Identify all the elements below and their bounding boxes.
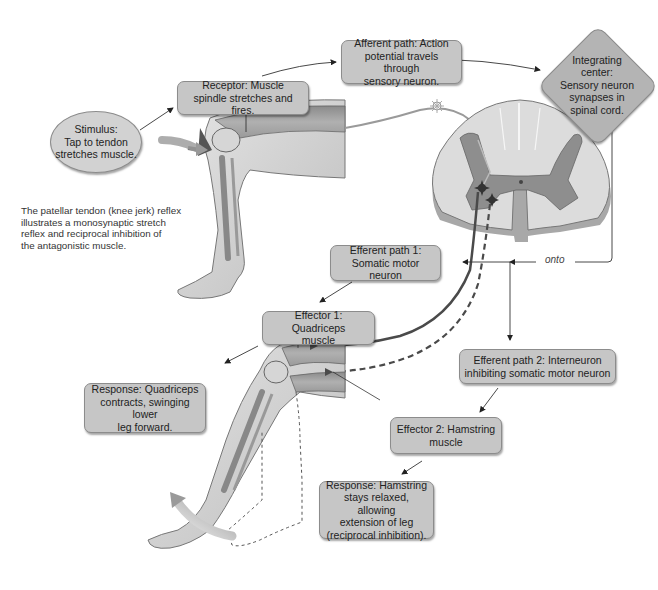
effector-2-node: Effector 2: Hamstring muscle: [390, 417, 502, 454]
afferent-path-label: Afferent path: Action potential travels …: [346, 37, 457, 87]
efferent-path-1-node: Efferent path 1: Somatic motor neuron: [330, 245, 441, 281]
response-1-label: Response: Quadriceps contracts, swinging…: [89, 383, 201, 433]
figure-caption: The patellar tendon (knee jerk) reflex i…: [21, 205, 201, 251]
effector-2-label: Effector 2: Hamstring muscle: [397, 423, 495, 448]
efferent-path-2-label: Efferent path 2: Interneuron inhibiting …: [465, 354, 611, 379]
integrating-center-label: Integrating center: Sensory neuron synap…: [536, 24, 658, 146]
afferent-path-node: Afferent path: Action potential travels …: [341, 40, 462, 84]
action-potential-spark-icon: [430, 99, 444, 113]
upper-leg-illustration: [162, 100, 345, 299]
receptor-label: Receptor: Muscle spindle stretches and f…: [182, 79, 304, 117]
receptor-node: Receptor: Muscle spindle stretches and f…: [177, 81, 309, 115]
response-1-node: Response: Quadriceps contracts, swinging…: [84, 383, 206, 433]
integrating-center-node: Integrating center: Sensory neuron synap…: [536, 24, 658, 146]
stimulus-label: Stimulus: Tap to tendon stretches muscle…: [55, 123, 137, 161]
efferent-path-1-label: Efferent path 1: Somatic motor neuron: [335, 244, 436, 282]
stimulus-node: Stimulus: Tap to tendon stretches muscle…: [50, 111, 142, 173]
lower-leg-illustration: [148, 338, 345, 548]
onto-label: onto: [545, 254, 564, 265]
response-2-label: Response: Hamstring stays relaxed, allow…: [324, 479, 429, 542]
response-2-node: Response: Hamstring stays relaxed, allow…: [319, 481, 434, 539]
inhibited-motor-neuron-path: [333, 204, 490, 372]
effector-1-label: Effector 1: Quadriceps muscle: [267, 309, 370, 347]
effector-1-node: Effector 1: Quadriceps muscle: [262, 311, 375, 345]
efferent-path-2-node: Efferent path 2: Interneuron inhibiting …: [459, 349, 616, 384]
